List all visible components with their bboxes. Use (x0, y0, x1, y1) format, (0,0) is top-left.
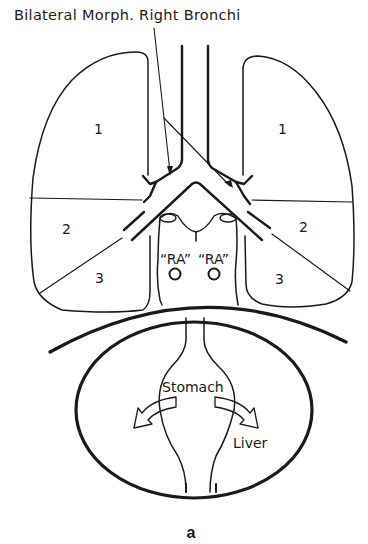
left-lobe-1: 1 (94, 121, 103, 137)
liver-label: Liver (233, 435, 268, 451)
bronchi (124, 176, 270, 240)
right-atrium-label: “RA” (198, 251, 229, 267)
figure-title: Bilateral Morph. Right Bronchi (14, 7, 241, 23)
right-lobe-2: 2 (299, 219, 308, 235)
right-lobe-3: 3 (275, 271, 284, 287)
left-arrow-icon (134, 397, 176, 428)
abdomen-outline (76, 322, 312, 498)
left-lung: 1 2 3 (30, 52, 150, 312)
right-lung: 1 2 3 (243, 56, 354, 307)
anatomy-diagram: Bilateral Morph. Right Bronchi 1 2 3 1 2… (0, 0, 368, 544)
right-lobe-1: 1 (278, 121, 287, 137)
stomach-label: Stomach (162, 379, 224, 395)
left-atrium-label: “RA” (160, 251, 191, 267)
figure-caption: a (187, 524, 196, 541)
right-arrow-icon (215, 397, 258, 428)
left-lobe-2: 2 (62, 221, 71, 237)
trachea (156, 46, 236, 182)
diaphragm (50, 307, 346, 352)
atria: “RA” “RA” (157, 213, 238, 305)
left-lobe-3: 3 (95, 270, 104, 286)
pointer-lines (154, 28, 233, 188)
